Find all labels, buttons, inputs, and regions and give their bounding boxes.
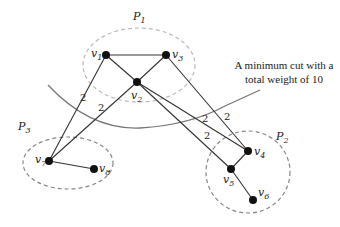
label-v2: v2: [131, 89, 142, 104]
weight-v1-v7: 2: [80, 92, 86, 103]
graph-partition-diagram: 2 2 2 2 2 v1 v2 v3 v4 v5 v6 v7 v8 P1 P2 …: [0, 0, 340, 227]
label-v6: v6: [258, 186, 269, 201]
node-v2: [133, 78, 141, 86]
node-v1: [102, 51, 110, 59]
weight-v2-v7: 2: [98, 102, 104, 113]
label-v1: v1: [91, 47, 102, 62]
weight-v2-v4: 2: [202, 113, 208, 124]
label-v7: v7: [35, 153, 47, 168]
node-v6: [249, 196, 257, 204]
label-v3: v3: [172, 48, 183, 63]
cut-annotation-line2: total weight of 10: [245, 73, 323, 85]
node-v5: [227, 165, 235, 173]
edge-v2-v3: [137, 55, 166, 82]
weight-v3-v4: 2: [224, 111, 230, 122]
node-v8: [90, 165, 98, 173]
label-p3: P3: [17, 120, 31, 135]
label-v5: v5: [223, 173, 234, 188]
label-p1: P1: [132, 10, 146, 25]
edge-v2-v7: [49, 82, 137, 161]
edge-v2-v5: [137, 82, 231, 169]
diagram-svg: 2 2 2 2 2 v1 v2 v3 v4 v5 v6 v7 v8 P1 P2 …: [0, 0, 340, 227]
partition-p1-outline: [83, 28, 195, 102]
cut-annotation-line1: A minimum cut with a: [235, 59, 334, 71]
node-v4: [244, 147, 252, 155]
node-v3: [162, 51, 170, 59]
label-v8: v8: [99, 162, 110, 177]
partition-p2-outline: [206, 131, 290, 213]
label-v4: v4: [254, 145, 265, 160]
label-p2: P2: [275, 130, 289, 145]
edge-v1-v2: [106, 55, 137, 82]
edge-v2-v4: [137, 82, 248, 151]
weight-v2-v5: 2: [204, 130, 210, 141]
edge-v7-v8: [49, 161, 94, 169]
